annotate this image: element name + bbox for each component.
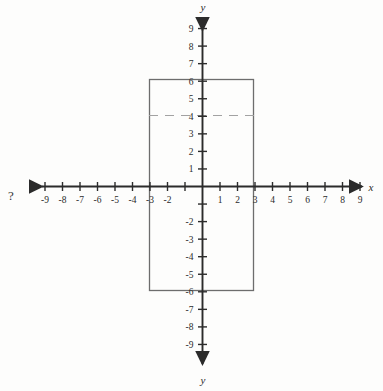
x-tick-label-6: 6 <box>305 195 310 205</box>
x-tick-label--2: -2 <box>164 195 172 205</box>
graph-canvas: -9-8-7-6-5-4-3-2123456789 987654321-2-3-… <box>0 0 383 391</box>
x-tick-label-8: 8 <box>340 195 345 205</box>
y-axis-label-bottom: y <box>200 374 206 386</box>
question-mark-annotation: ? <box>8 188 14 203</box>
y-tick-label--3: -3 <box>186 235 194 245</box>
y-tick-label--6: -6 <box>186 287 194 297</box>
x-tick-label-3: 3 <box>253 195 258 205</box>
y-tick-label-6: 6 <box>189 77 194 87</box>
x-tick-label--8: -8 <box>59 195 67 205</box>
y-axis: 987654321-2-3-4-5-6-7-8-9 <box>186 24 207 364</box>
y-tick-label-9: 9 <box>189 24 194 34</box>
x-tick-label--6: -6 <box>94 195 102 205</box>
y-tick-label--8: -8 <box>186 322 194 332</box>
coordinate-plane-figure: -9-8-7-6-5-4-3-2123456789 987654321-2-3-… <box>0 0 383 391</box>
y-tick-label-4: 4 <box>189 112 194 122</box>
y-tick-label-1: 1 <box>189 164 194 174</box>
y-tick-label--4: -4 <box>186 252 194 262</box>
x-axis-label: x <box>368 181 374 193</box>
y-tick-label--7: -7 <box>186 305 194 315</box>
x-tick-label-7: 7 <box>323 195 328 205</box>
y-tick-label--2: -2 <box>186 217 194 227</box>
x-tick-label-5: 5 <box>288 195 293 205</box>
x-tick-label-4: 4 <box>270 195 275 205</box>
x-tick-label--4: -4 <box>129 195 137 205</box>
x-tick-label--5: -5 <box>111 195 119 205</box>
x-tick-label-9: 9 <box>358 195 363 205</box>
x-tick-label-2: 2 <box>235 195 240 205</box>
y-tick-label--9: -9 <box>186 340 194 350</box>
y-tick-label-7: 7 <box>189 59 194 69</box>
y-tick-label--5: -5 <box>186 270 194 280</box>
y-tick-label-5: 5 <box>189 94 194 104</box>
y-tick-label-3: 3 <box>189 129 194 139</box>
y-axis-label-top: y <box>200 1 206 13</box>
x-tick-label--3: -3 <box>146 195 154 205</box>
y-tick-label-2: 2 <box>189 147 194 157</box>
x-tick-label-1: 1 <box>218 195 223 205</box>
x-tick-label--7: -7 <box>76 195 84 205</box>
x-tick-label--9: -9 <box>41 195 49 205</box>
y-tick-label-8: 8 <box>189 42 194 52</box>
